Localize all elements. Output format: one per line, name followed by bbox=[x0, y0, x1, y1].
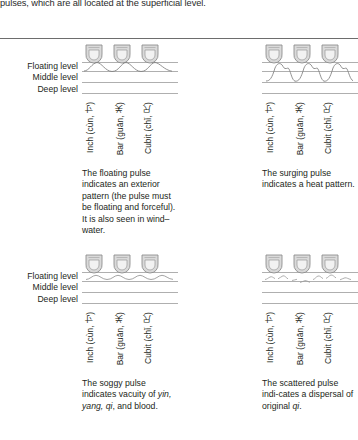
position-label-cubit: Cubit (chǐ, 尺) bbox=[324, 312, 332, 364]
position-labels-soggy: Inch (cùn, 寸) Bar (guān, 关) Cubit (chǐ, … bbox=[82, 312, 178, 378]
fingertip-icon bbox=[142, 45, 158, 63]
caption-scattered-pre: The scattered pulse indi-cates a dispers… bbox=[262, 378, 353, 411]
caption-scattered-pulse: The scattered pulse indi-cates a dispers… bbox=[262, 378, 356, 412]
position-labels-surging: Inch (cùn, 寸) Bar (guān, 关) Cubit (chǐ, … bbox=[262, 102, 358, 168]
fingertip-icon bbox=[114, 255, 130, 273]
caption-surging-pulse: The surging pulse indicates a heat patte… bbox=[262, 168, 356, 191]
level-label-middle: Middle level bbox=[0, 72, 78, 83]
figure-floating-pulse: Floating level Middle level Deep level bbox=[0, 44, 178, 244]
caption-soggy-post: , and blood. bbox=[112, 401, 157, 411]
caption-soggy-pre: The soggy pulse indicates vacuity of bbox=[82, 378, 158, 399]
pulse-diagram-page: pulses, which are all located at the sup… bbox=[0, 0, 358, 440]
level-label-deep: Deep level bbox=[0, 84, 78, 95]
level-label-floating: Floating level bbox=[0, 61, 78, 72]
level-labels-soggy: Floating level Middle level Deep level bbox=[0, 254, 78, 305]
figure-soggy-pulse: Floating level Middle level Deep level bbox=[0, 254, 178, 440]
position-label-bar: Bar (guān, 关) bbox=[296, 102, 304, 155]
fingertip-icon bbox=[266, 45, 282, 63]
position-labels-floating: Inch (cùn, 寸) Bar (guān, 关) Cubit (chǐ, … bbox=[82, 102, 178, 168]
fingertip-group bbox=[266, 45, 338, 63]
level-label-middle: Middle level bbox=[0, 282, 78, 293]
position-labels-scattered: Inch (cùn, 寸) Bar (guān, 关) Cubit (chǐ, … bbox=[262, 312, 358, 378]
position-label-bar: Bar (guān, 关) bbox=[116, 312, 124, 365]
position-label-cubit: Cubit (chǐ, 尺) bbox=[144, 312, 152, 364]
fingertip-icon bbox=[86, 255, 102, 273]
caption-soggy-pulse: The soggy pulse indicates vacuity of yin… bbox=[82, 378, 176, 412]
pulse-waveform-surging bbox=[266, 64, 353, 82]
position-label-inch: Inch (cùn, 寸) bbox=[266, 312, 274, 363]
level-lines bbox=[262, 63, 358, 94]
position-label-inch: Inch (cùn, 寸) bbox=[86, 312, 94, 363]
figure-scattered-pulse: Inch (cùn, 寸) Bar (guān, 关) Cubit (chǐ, … bbox=[180, 254, 358, 440]
pulse-waveform-soggy bbox=[86, 275, 173, 279]
caption-scattered-post: . bbox=[299, 401, 301, 411]
position-label-bar: Bar (guān, 关) bbox=[116, 102, 124, 155]
fingertip-icon bbox=[266, 255, 282, 273]
running-text: pulses, which are all located at the sup… bbox=[0, 0, 358, 10]
fingertip-group bbox=[86, 45, 158, 63]
fingertip-group bbox=[86, 255, 158, 273]
section-divider bbox=[0, 38, 358, 39]
level-lines bbox=[82, 273, 178, 304]
position-label-inch: Inch (cùn, 寸) bbox=[86, 102, 94, 153]
level-labels-floating: Floating level Middle level Deep level bbox=[0, 44, 78, 95]
fingertip-icon bbox=[294, 255, 310, 273]
fingertip-icon bbox=[86, 45, 102, 63]
position-label-cubit: Cubit (chǐ, 尺) bbox=[324, 102, 332, 154]
fingertip-icon bbox=[114, 45, 130, 63]
position-label-cubit: Cubit (chǐ, 尺) bbox=[144, 102, 152, 154]
fingertip-icon bbox=[322, 255, 338, 273]
pulse-waveform-floating bbox=[84, 63, 172, 72]
fingertip-icon bbox=[142, 255, 158, 273]
fingertip-icon bbox=[322, 45, 338, 63]
position-label-inch: Inch (cùn, 寸) bbox=[266, 102, 274, 153]
level-label-floating: Floating level bbox=[0, 271, 78, 282]
figure-surging-pulse: Inch (cùn, 寸) Bar (guān, 关) Cubit (chǐ, … bbox=[180, 44, 358, 244]
level-lines bbox=[262, 273, 358, 304]
fingertip-group bbox=[266, 255, 338, 273]
position-label-bar: Bar (guān, 关) bbox=[296, 312, 304, 365]
fingertip-icon bbox=[294, 45, 310, 63]
level-label-deep: Deep level bbox=[0, 294, 78, 305]
caption-floating-pulse: The floating pulse indicates an exterior… bbox=[82, 168, 176, 236]
